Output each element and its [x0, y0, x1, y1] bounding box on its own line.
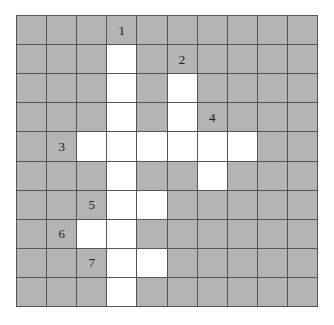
block-cell: [228, 191, 257, 219]
open-cell[interactable]: [107, 220, 136, 248]
block-cell: [47, 16, 76, 44]
block-cell: [137, 16, 166, 44]
open-cell[interactable]: [107, 103, 136, 131]
block-cell: [17, 191, 46, 219]
block-cell: [288, 162, 317, 190]
clue-number: 2: [179, 53, 186, 66]
block-cell: [228, 162, 257, 190]
clue-number: 4: [209, 111, 216, 124]
block-cell: [17, 249, 46, 277]
block-cell: [77, 278, 106, 306]
block-cell: [258, 249, 287, 277]
block-cell: [288, 45, 317, 73]
block-cell: [47, 278, 76, 306]
block-cell: 5: [77, 191, 106, 219]
open-cell[interactable]: [107, 74, 136, 102]
crossword-grid: 1243567: [16, 15, 318, 307]
block-cell: [198, 74, 227, 102]
clue-number: 1: [119, 24, 126, 37]
block-cell: [77, 16, 106, 44]
block-cell: 7: [77, 249, 106, 277]
block-cell: [258, 74, 287, 102]
block-cell: [288, 103, 317, 131]
block-cell: [137, 45, 166, 73]
block-cell: [168, 249, 197, 277]
open-cell[interactable]: [107, 162, 136, 190]
block-cell: [17, 103, 46, 131]
block-cell: [288, 220, 317, 248]
block-cell: [17, 278, 46, 306]
block-cell: [258, 191, 287, 219]
block-cell: [198, 45, 227, 73]
block-cell: [228, 45, 257, 73]
block-cell: [198, 278, 227, 306]
block-cell: [17, 74, 46, 102]
open-cell[interactable]: [198, 132, 227, 160]
open-cell[interactable]: [168, 132, 197, 160]
open-cell[interactable]: [77, 220, 106, 248]
block-cell: [168, 16, 197, 44]
open-cell[interactable]: [137, 132, 166, 160]
block-cell: [47, 103, 76, 131]
block-cell: [47, 45, 76, 73]
block-cell: [47, 249, 76, 277]
block-cell: [17, 45, 46, 73]
block-cell: [258, 132, 287, 160]
block-cell: [258, 278, 287, 306]
block-cell: [77, 103, 106, 131]
clue-number: 7: [88, 256, 95, 269]
block-cell: [288, 249, 317, 277]
open-cell[interactable]: [137, 249, 166, 277]
open-cell[interactable]: [107, 45, 136, 73]
open-cell[interactable]: [137, 191, 166, 219]
block-cell: [198, 220, 227, 248]
block-cell: [137, 162, 166, 190]
block-cell: [137, 103, 166, 131]
block-cell: [258, 45, 287, 73]
open-cell[interactable]: [77, 132, 106, 160]
clue-number: 5: [88, 198, 95, 211]
block-cell: [17, 132, 46, 160]
block-cell: 3: [47, 132, 76, 160]
open-cell[interactable]: [107, 132, 136, 160]
block-cell: [168, 191, 197, 219]
block-cell: [198, 16, 227, 44]
open-cell[interactable]: [168, 103, 197, 131]
block-cell: [288, 74, 317, 102]
block-cell: [288, 16, 317, 44]
block-cell: 1: [107, 16, 136, 44]
block-cell: [228, 278, 257, 306]
block-cell: [198, 249, 227, 277]
block-cell: [17, 162, 46, 190]
block-cell: [258, 162, 287, 190]
block-cell: [17, 220, 46, 248]
block-cell: [258, 103, 287, 131]
open-cell[interactable]: [107, 191, 136, 219]
block-cell: [288, 191, 317, 219]
open-cell[interactable]: [107, 249, 136, 277]
block-cell: [47, 162, 76, 190]
block-cell: [258, 16, 287, 44]
block-cell: [288, 132, 317, 160]
open-cell[interactable]: [168, 74, 197, 102]
block-cell: [288, 278, 317, 306]
open-cell[interactable]: [228, 132, 257, 160]
open-cell[interactable]: [107, 278, 136, 306]
block-cell: [137, 74, 166, 102]
block-cell: [47, 191, 76, 219]
block-cell: [198, 191, 227, 219]
block-cell: [168, 220, 197, 248]
block-cell: [228, 74, 257, 102]
block-cell: [258, 220, 287, 248]
block-cell: [47, 74, 76, 102]
block-cell: 6: [47, 220, 76, 248]
block-cell: [168, 278, 197, 306]
clue-number: 3: [58, 140, 65, 153]
open-cell[interactable]: [198, 162, 227, 190]
block-cell: [137, 220, 166, 248]
block-cell: [77, 74, 106, 102]
block-cell: 4: [198, 103, 227, 131]
block-cell: [228, 220, 257, 248]
block-cell: 2: [168, 45, 197, 73]
block-cell: [137, 278, 166, 306]
